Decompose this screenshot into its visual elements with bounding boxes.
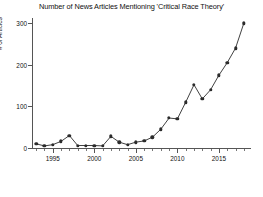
y-axis-label: # of Articles — [0, 17, 3, 50]
data-point — [151, 135, 154, 138]
x-tick-mark — [244, 149, 245, 151]
x-tick-mark — [111, 149, 112, 151]
data-point — [201, 97, 204, 100]
data-point — [184, 101, 187, 104]
data-point — [226, 61, 229, 64]
data-point — [126, 143, 129, 146]
x-tick-mark — [128, 149, 129, 151]
x-tick-mark — [161, 149, 162, 151]
x-tick-mark — [144, 149, 145, 151]
x-tick-mark — [36, 149, 37, 151]
data-point — [93, 144, 96, 147]
y-axis-line — [32, 18, 33, 149]
x-tick-label: 2015 — [212, 155, 226, 162]
y-tick-label: 200 — [16, 61, 27, 68]
x-tick-mark — [103, 149, 104, 151]
data-point — [68, 134, 71, 137]
x-tick-mark — [53, 149, 54, 153]
x-tick-mark — [152, 149, 153, 151]
data-point — [109, 135, 112, 138]
data-point — [176, 117, 179, 120]
x-tick-mark — [169, 149, 170, 151]
x-tick-label: 2000 — [87, 155, 101, 162]
data-point — [242, 21, 245, 24]
chart-title: Number of News Articles Mentioning 'Crit… — [0, 2, 263, 11]
data-point — [217, 73, 220, 76]
x-tick-mark — [69, 149, 70, 151]
x-tick-mark — [202, 149, 203, 151]
x-tick-mark — [119, 149, 120, 151]
y-tick-mark — [28, 23, 32, 24]
y-tick-mark — [28, 148, 32, 149]
data-point — [76, 144, 79, 147]
x-tick-mark — [78, 149, 79, 151]
data-point — [134, 140, 137, 143]
data-point — [118, 140, 121, 143]
x-tick-mark — [219, 149, 220, 153]
x-tick-label: 2005 — [129, 155, 143, 162]
chart-container: Number of News Articles Mentioning 'Crit… — [0, 0, 263, 197]
x-tick-mark — [211, 149, 212, 151]
data-point — [59, 140, 62, 143]
y-tick-mark — [28, 65, 32, 66]
x-tick-label: 1995 — [46, 155, 60, 162]
x-tick-mark — [94, 149, 95, 153]
data-point — [209, 88, 212, 91]
x-tick-mark — [136, 149, 137, 153]
x-tick-mark — [177, 149, 178, 153]
y-tick-label: 300 — [16, 20, 27, 27]
x-tick-mark — [236, 149, 237, 151]
x-tick-mark — [194, 149, 195, 151]
data-point — [34, 142, 37, 145]
x-tick-mark — [44, 149, 45, 151]
x-tick-label: 2010 — [170, 155, 184, 162]
x-tick-mark — [61, 149, 62, 151]
data-point — [234, 46, 237, 49]
data-series-line — [0, 0, 263, 197]
y-tick-mark — [28, 106, 32, 107]
y-tick-label: 0 — [23, 145, 27, 152]
x-tick-mark — [227, 149, 228, 151]
data-point — [159, 128, 162, 131]
data-point — [84, 144, 87, 147]
x-tick-mark — [186, 149, 187, 151]
data-point — [51, 143, 54, 146]
x-tick-mark — [86, 149, 87, 151]
y-tick-label: 100 — [16, 103, 27, 110]
data-point — [142, 139, 145, 142]
data-point — [167, 116, 170, 119]
data-point — [192, 83, 195, 86]
